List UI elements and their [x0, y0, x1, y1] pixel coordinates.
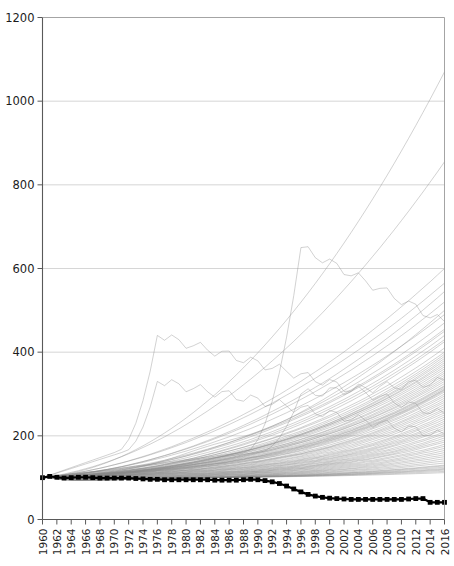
highlighted-series-marker	[148, 477, 153, 482]
x-tick-label: 2004	[352, 528, 364, 555]
x-tick-label: 1994	[281, 528, 293, 555]
highlighted-series-marker	[363, 497, 368, 502]
highlighted-series-marker	[133, 476, 138, 481]
x-tick-label: 1992	[266, 529, 278, 556]
x-tick-label: 2006	[367, 528, 379, 555]
highlighted-series-marker	[47, 474, 52, 479]
x-tick-label: 2012	[410, 529, 422, 556]
y-tick-label: 800	[13, 178, 35, 192]
highlighted-series-marker	[421, 496, 426, 501]
highlighted-series-marker	[342, 497, 347, 502]
highlighted-series-marker	[191, 477, 196, 482]
highlighted-series-marker	[370, 497, 375, 502]
highlighted-series-marker	[126, 476, 131, 481]
x-tick-label: 1988	[238, 529, 250, 556]
highlighted-series-marker	[220, 478, 225, 483]
highlighted-series-marker	[155, 477, 160, 482]
highlighted-series-marker	[263, 478, 268, 483]
highlighted-series-marker	[169, 477, 174, 482]
x-axis-tick-labels: 1960196219641966196819701972197419761978…	[37, 528, 451, 555]
x-tick-label: 1980	[180, 529, 192, 556]
x-tick-label: 1974	[137, 528, 149, 555]
highlighted-series-marker	[406, 497, 411, 502]
highlighted-series-marker	[90, 475, 95, 480]
highlighted-series-marker	[399, 497, 404, 502]
highlighted-series-marker	[284, 484, 289, 489]
x-tick-label: 1986	[223, 528, 235, 555]
highlighted-series-marker	[349, 497, 354, 502]
x-tick-label: 1976	[151, 528, 163, 555]
highlighted-series-marker	[248, 477, 253, 482]
highlighted-series-marker	[76, 475, 81, 480]
x-tick-label: 2016	[439, 528, 451, 555]
x-tick-label: 1998	[309, 529, 321, 556]
x-tick-label: 1978	[166, 529, 178, 556]
x-tick-label: 1972	[123, 529, 135, 556]
x-tick-label: 1970	[108, 529, 120, 556]
highlighted-series-marker	[62, 476, 67, 481]
chart-root: indexed to 1960 = 100 020040060080010001…	[0, 0, 454, 566]
highlighted-series-marker	[385, 497, 390, 502]
highlighted-series-marker	[198, 477, 203, 482]
y-tick-label: 400	[13, 345, 35, 359]
highlighted-series-marker	[112, 476, 117, 481]
highlighted-series-marker	[205, 477, 210, 482]
x-tick-label: 1968	[94, 529, 106, 556]
x-tick-label: 1964	[65, 528, 77, 555]
highlighted-series-marker	[184, 477, 189, 482]
highlighted-series-marker	[255, 477, 260, 482]
x-tick-label: 1996	[295, 528, 307, 555]
highlighted-series-marker	[320, 495, 325, 500]
highlighted-series-marker	[69, 475, 74, 480]
highlighted-series-marker	[176, 477, 181, 482]
highlighted-series-marker	[227, 478, 232, 483]
y-tick-label: 200	[13, 429, 35, 443]
x-tick-label: 2008	[381, 529, 393, 556]
highlighted-series-marker	[291, 487, 296, 492]
line-chart-spaghetti-plot: 020040060080010001200 196019621964196619…	[0, 0, 454, 566]
highlighted-series-marker	[277, 481, 282, 486]
highlighted-series-marker	[98, 476, 103, 481]
x-tick-label: 2002	[338, 529, 350, 556]
highlighted-series-marker	[306, 492, 311, 497]
highlighted-series-marker	[162, 477, 167, 482]
highlighted-series-marker	[377, 497, 382, 502]
highlighted-series-marker	[313, 494, 318, 499]
highlighted-series-marker	[212, 478, 217, 483]
highlighted-series-marker	[428, 500, 433, 505]
x-tick-label: 1990	[252, 529, 264, 556]
x-tick-label: 1984	[209, 528, 221, 555]
y-tick-label: 1200	[5, 11, 34, 25]
highlighted-series-marker	[141, 477, 146, 482]
x-tick-label: 2000	[324, 529, 336, 556]
highlighted-series-marker	[241, 477, 246, 482]
highlighted-series-marker	[270, 479, 275, 484]
y-tick-label: 0	[27, 513, 34, 527]
highlighted-series-marker	[334, 496, 339, 501]
x-tick-label: 2014	[424, 528, 436, 555]
x-tick-label: 2010	[395, 529, 407, 556]
x-tick-label: 1966	[80, 528, 92, 555]
y-tick-label: 1000	[5, 94, 34, 108]
highlighted-series-marker	[234, 478, 239, 483]
highlighted-series-marker	[392, 497, 397, 502]
x-tick-label: 1982	[194, 529, 206, 556]
x-tick-label: 1960	[37, 529, 49, 556]
highlighted-series-marker	[299, 489, 304, 494]
highlighted-series-marker	[413, 496, 418, 501]
highlighted-series-marker	[119, 476, 124, 481]
highlighted-series-marker	[83, 475, 88, 480]
highlighted-series-marker	[54, 475, 59, 480]
highlighted-series-marker	[105, 476, 110, 481]
highlighted-series-marker	[435, 500, 440, 505]
highlighted-series-marker	[327, 496, 332, 501]
highlighted-series-marker	[356, 497, 361, 502]
x-tick-label: 1962	[51, 529, 63, 556]
y-tick-label: 600	[13, 262, 35, 276]
